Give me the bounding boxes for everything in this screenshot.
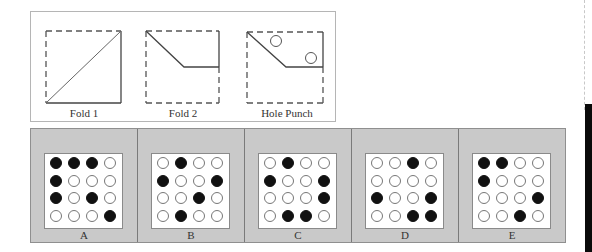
- empty-hole-icon: [175, 192, 187, 204]
- filled-hole-icon: [104, 210, 116, 222]
- empty-hole-icon: [532, 157, 544, 169]
- empty-hole-icon: [407, 192, 419, 204]
- empty-hole-icon: [389, 192, 401, 204]
- empty-hole-icon: [300, 175, 312, 187]
- filled-hole-icon: [157, 175, 169, 187]
- filled-hole-icon: [425, 210, 437, 222]
- fold-1-label: Fold 1: [29, 107, 139, 119]
- empty-hole-icon: [514, 175, 526, 187]
- page-edge-divider: [584, 0, 585, 110]
- filled-hole-icon: [175, 157, 187, 169]
- empty-hole-icon: [104, 157, 116, 169]
- hole-grid: [50, 157, 116, 222]
- hole-grid-card: [472, 153, 551, 229]
- option-label: A: [31, 229, 137, 241]
- empty-hole-icon: [300, 157, 312, 169]
- filled-hole-icon: [318, 175, 330, 187]
- option-label: E: [459, 229, 565, 241]
- filled-hole-icon: [264, 175, 276, 187]
- filled-hole-icon: [282, 157, 294, 169]
- empty-hole-icon: [193, 157, 205, 169]
- empty-hole-icon: [478, 192, 490, 204]
- empty-hole-icon: [318, 210, 330, 222]
- empty-hole-icon: [425, 175, 437, 187]
- empty-hole-icon: [86, 175, 98, 187]
- empty-hole-icon: [211, 210, 223, 222]
- answer-option-d[interactable]: D: [352, 129, 459, 242]
- empty-hole-icon: [371, 210, 383, 222]
- empty-hole-icon: [389, 210, 401, 222]
- empty-hole-icon: [389, 157, 401, 169]
- filled-hole-icon: [193, 192, 205, 204]
- empty-hole-icon: [300, 192, 312, 204]
- filled-hole-icon: [300, 210, 312, 222]
- empty-hole-icon: [50, 210, 62, 222]
- empty-hole-icon: [68, 192, 80, 204]
- empty-hole-icon: [478, 210, 490, 222]
- empty-hole-icon: [318, 157, 330, 169]
- filled-hole-icon: [514, 210, 526, 222]
- hole-punch-diagram-icon: [232, 12, 342, 107]
- hole-punch-label: Hole Punch: [232, 107, 342, 119]
- empty-hole-icon: [193, 210, 205, 222]
- hole-grid-card: [365, 153, 444, 229]
- hole-grid-card: [258, 153, 337, 229]
- filled-hole-icon: [175, 210, 187, 222]
- empty-hole-icon: [371, 157, 383, 169]
- filled-hole-icon: [407, 157, 419, 169]
- empty-hole-icon: [157, 157, 169, 169]
- empty-hole-icon: [371, 175, 383, 187]
- empty-hole-icon: [425, 157, 437, 169]
- empty-hole-icon: [68, 175, 80, 187]
- empty-hole-icon: [264, 210, 276, 222]
- answer-options-panel: ABCDE: [30, 128, 566, 243]
- option-label: D: [352, 229, 458, 241]
- filled-hole-icon: [478, 175, 490, 187]
- page-edge-shadow: [585, 104, 592, 252]
- filled-hole-icon: [532, 192, 544, 204]
- empty-hole-icon: [496, 210, 508, 222]
- empty-hole-icon: [389, 175, 401, 187]
- answer-option-b[interactable]: B: [138, 129, 245, 242]
- empty-hole-icon: [514, 192, 526, 204]
- option-label: B: [138, 229, 244, 241]
- filled-hole-icon: [425, 192, 437, 204]
- empty-hole-icon: [496, 175, 508, 187]
- empty-hole-icon: [86, 210, 98, 222]
- filled-hole-icon: [407, 210, 419, 222]
- empty-hole-icon: [175, 175, 187, 187]
- empty-hole-icon: [157, 210, 169, 222]
- empty-hole-icon: [282, 192, 294, 204]
- empty-hole-icon: [514, 157, 526, 169]
- hole-grid: [264, 157, 330, 222]
- empty-hole-icon: [193, 175, 205, 187]
- empty-hole-icon: [157, 192, 169, 204]
- empty-hole-icon: [104, 175, 116, 187]
- empty-hole-icon: [282, 175, 294, 187]
- option-label: C: [245, 229, 351, 241]
- answer-option-a[interactable]: A: [31, 129, 138, 242]
- fold-1-diagram-icon: [31, 12, 141, 107]
- filled-hole-icon: [478, 157, 490, 169]
- empty-hole-icon: [68, 210, 80, 222]
- empty-hole-icon: [532, 175, 544, 187]
- filled-hole-icon: [68, 157, 80, 169]
- empty-hole-icon: [407, 175, 419, 187]
- filled-hole-icon: [496, 157, 508, 169]
- hole-grid-card: [44, 153, 123, 229]
- fold-2-label: Fold 2: [128, 107, 238, 119]
- filled-hole-icon: [211, 175, 223, 187]
- hole-grid: [157, 157, 223, 222]
- empty-hole-icon: [264, 157, 276, 169]
- hole-grid: [478, 157, 544, 222]
- empty-hole-icon: [532, 210, 544, 222]
- empty-hole-icon: [264, 192, 276, 204]
- filled-hole-icon: [318, 192, 330, 204]
- answer-option-e[interactable]: E: [459, 129, 565, 242]
- empty-hole-icon: [211, 157, 223, 169]
- hole-grid-card: [151, 153, 230, 229]
- empty-hole-icon: [496, 192, 508, 204]
- filled-hole-icon: [86, 157, 98, 169]
- filled-hole-icon: [86, 192, 98, 204]
- answer-option-c[interactable]: C: [245, 129, 352, 242]
